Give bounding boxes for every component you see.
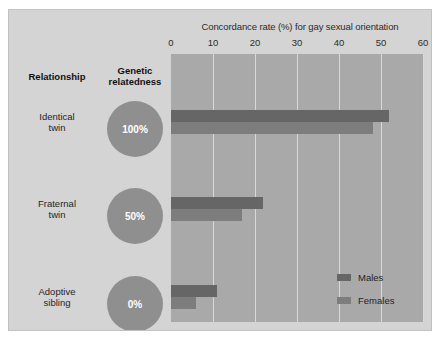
gridline-20: [255, 54, 256, 322]
row-label-fraternal-twin-line1: Fraternal: [38, 198, 76, 209]
row-label-identical-twin-line1: Identical: [39, 111, 74, 122]
x-tick-label-40: 40: [324, 37, 354, 48]
chart-title: Concordance rate (%) for gay sexual orie…: [171, 21, 429, 32]
plot-area: MalesFemales: [171, 54, 423, 322]
column-header-genetic-relatedness-line1: Genetic: [118, 65, 153, 76]
x-axis-tick-labels: 0102030405060: [9, 37, 431, 51]
row-label-fraternal-twin: Fraternaltwin: [17, 198, 97, 220]
x-tick-label-20: 20: [240, 37, 270, 48]
bar-males-adoptive-sibling: [171, 285, 217, 297]
x-tick-label-60: 60: [408, 37, 432, 48]
chart-legend: MalesFemales: [337, 272, 411, 306]
relatedness-circle-identical-twin: 100%: [107, 101, 163, 157]
row-label-adoptive-sibling: Adoptivesibling: [17, 286, 97, 308]
bar-females-fraternal-twin: [171, 209, 242, 221]
legend-label-males: Males: [358, 272, 383, 283]
relatedness-circle-adoptive-sibling: 0%: [107, 276, 163, 331]
x-tick-label-30: 30: [282, 37, 312, 48]
x-tick-label-50: 50: [366, 37, 396, 48]
relatedness-value-adoptive-sibling: 0%: [128, 299, 142, 310]
row-label-fraternal-twin-line2: twin: [49, 209, 66, 220]
gridline-60: [423, 54, 424, 322]
bar-females-adoptive-sibling: [171, 297, 196, 309]
column-header-genetic-relatedness-line2: relatedness: [109, 76, 162, 87]
column-header-relationship: Relationship: [17, 71, 97, 82]
bar-males-fraternal-twin: [171, 197, 263, 209]
legend-swatch-males: [337, 274, 351, 281]
relatedness-value-fraternal-twin: 50%: [125, 211, 145, 222]
x-tick-label-0: 0: [156, 37, 186, 48]
bar-males-identical-twin: [171, 110, 389, 122]
row-label-identical-twin-line2: twin: [49, 122, 66, 133]
row-label-identical-twin: Identicaltwin: [17, 111, 97, 133]
relatedness-value-identical-twin: 100%: [122, 124, 148, 135]
bar-females-identical-twin: [171, 122, 373, 134]
figure-panel: Concordance rate (%) for gay sexual orie…: [8, 9, 432, 331]
relatedness-circle-fraternal-twin: 50%: [107, 188, 163, 244]
legend-swatch-females: [337, 297, 351, 304]
row-label-adoptive-sibling-line2: sibling: [44, 297, 71, 308]
column-header-genetic-relatedness: Genetic relatedness: [99, 65, 171, 87]
legend-item-females: Females: [337, 295, 411, 306]
legend-label-females: Females: [358, 295, 394, 306]
legend-item-males: Males: [337, 272, 411, 283]
gridline-10: [213, 54, 214, 322]
gridline-30: [297, 54, 298, 322]
row-label-adoptive-sibling-line1: Adoptive: [39, 286, 76, 297]
x-tick-label-10: 10: [198, 37, 228, 48]
